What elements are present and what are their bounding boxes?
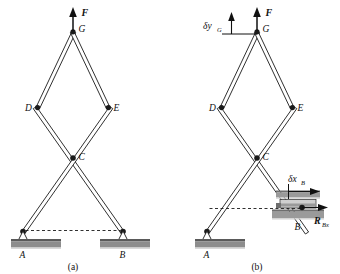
force-arrow-b (253, 7, 261, 31)
joint-label-a-E: E (113, 103, 120, 113)
ground-bar-a (11, 239, 61, 249)
virtual-disp-horizontal-symbol: δx (288, 174, 297, 184)
virtual-disp-vertical-symbol: δy (203, 21, 212, 31)
link-b-GD (220, 31, 259, 109)
joint-label-b-B: B (295, 222, 301, 232)
link-GE (70, 31, 109, 109)
engineering-figure: F G D E C A B (a) (0, 0, 340, 274)
link-GD (36, 31, 75, 109)
joint-label-a-G: G (79, 24, 86, 34)
link-b-GE (254, 31, 293, 109)
joint-pin-D (35, 105, 40, 110)
reaction-subscript: Bx (322, 221, 329, 228)
joint-label-b-E: E (297, 103, 304, 113)
joint-label-a-B: B (120, 250, 126, 260)
link-DB (33, 107, 124, 234)
virtual-disp-vertical-b (222, 12, 257, 34)
joint-pin-b-C (254, 155, 260, 161)
force-label-a: F (81, 7, 89, 18)
virtual-disp-horizontal-subscript: B (301, 179, 305, 186)
force-label-b: F (265, 7, 273, 18)
force-arrow-a (69, 7, 77, 31)
joint-pin-E (106, 105, 111, 110)
virtual-disp-vertical-subscript: G (217, 26, 222, 33)
joint-label-b-G: G (263, 24, 270, 34)
joint-pin-b-D (219, 105, 224, 110)
ground-bar-b (100, 239, 150, 249)
joint-pin-C (70, 155, 76, 161)
caption-a: (a) (68, 262, 79, 273)
joint-label-a-C: C (79, 152, 86, 162)
joint-label-b-A: A (203, 250, 210, 260)
virtual-disp-vertical-label: δy G (203, 21, 222, 33)
panel-a: F G D E C A B (a) (11, 7, 150, 274)
ground-bar-b-a (195, 239, 245, 249)
joint-label-b-D: D (208, 103, 216, 113)
panel-a-linkage (21, 31, 124, 234)
link-EA (21, 107, 112, 234)
virtual-disp-horizontal-label: δx B (288, 174, 305, 186)
joint-label-a-D: D (24, 103, 32, 113)
joint-pin-b-E (290, 105, 295, 110)
joint-label-b-C: C (263, 152, 270, 162)
panel-b: F δy G δx B R Bx G D E C A B (b) (195, 7, 329, 274)
reaction-symbol: R (313, 215, 321, 226)
joint-label-a-A: A (19, 250, 26, 260)
caption-b: (b) (251, 262, 262, 273)
